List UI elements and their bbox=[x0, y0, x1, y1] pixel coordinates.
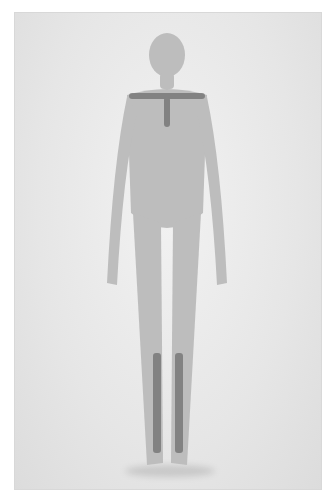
standing-figure-silhouette bbox=[15, 13, 321, 489]
photo-frame bbox=[14, 12, 322, 490]
